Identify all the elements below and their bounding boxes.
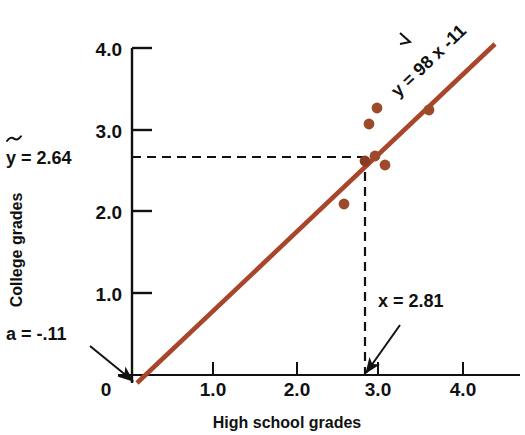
data-point	[370, 151, 381, 162]
regression-equation-label: y = 98 x -11	[387, 21, 470, 101]
y-tick-label-2: 2.0	[96, 202, 122, 223]
y-tick-label-4: 4.0	[96, 39, 122, 60]
intercept-arrow	[90, 346, 133, 381]
regression-scatter-figure: 4.0 3.0 2.0 1.0 0 1.0 2.0 3.0 4.0 High s…	[0, 0, 525, 435]
y-tick-label-1: 1.0	[96, 284, 122, 305]
y-axis-ticks	[132, 48, 152, 293]
x-axis-ticks	[213, 362, 463, 375]
equation-pointer-icon	[400, 33, 410, 44]
tilde-accent-icon	[7, 136, 21, 141]
data-points-group	[339, 103, 435, 210]
x-tick-label-3: 3.0	[365, 379, 391, 400]
data-point	[360, 156, 371, 167]
x-tick-label-4: 4.0	[450, 379, 476, 400]
regression-line	[137, 44, 495, 383]
x-value-label: x = 2.81	[378, 291, 444, 311]
axes-group	[118, 48, 520, 383]
chart-canvas: 4.0 3.0 2.0 1.0 0 1.0 2.0 3.0 4.0 High s…	[0, 0, 525, 435]
y-tick-label-3: 3.0	[96, 121, 122, 142]
predicted-y-annotation: y = 2.64	[6, 136, 72, 168]
data-point	[364, 119, 375, 130]
x-tick-label-1: 1.0	[200, 379, 226, 400]
x-tick-label-2: 2.0	[284, 379, 310, 400]
guide-lines-group	[132, 157, 366, 374]
predicted-y-label: y = 2.64	[6, 148, 72, 168]
x-value-annotation: x = 2.81	[366, 291, 444, 373]
data-point	[380, 160, 391, 171]
intercept-label: a = -.11	[6, 324, 67, 344]
intercept-annotation: a = -.11	[6, 324, 133, 381]
y-axis-title: College grades	[8, 193, 25, 308]
x-axis-title: High school grades	[213, 414, 362, 431]
data-point	[424, 105, 435, 116]
data-point	[339, 199, 350, 210]
origin-label: 0	[101, 379, 112, 400]
data-point	[372, 103, 383, 114]
x-value-arrow	[366, 325, 400, 373]
